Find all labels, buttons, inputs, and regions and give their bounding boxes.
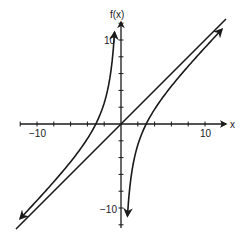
x-tick-label-neg10: −10 xyxy=(29,128,46,139)
x-axis-label: x xyxy=(230,119,235,130)
x-tick-label-10: 10 xyxy=(200,128,212,139)
function-curve-left-branch xyxy=(20,32,114,218)
function-curve-right-branch xyxy=(127,30,221,216)
y-tick-label-neg10: −10 xyxy=(100,204,117,215)
y-axis-label: f(x) xyxy=(110,9,124,20)
function-graph: x f(x) −10 10 10 −10 xyxy=(0,0,243,237)
